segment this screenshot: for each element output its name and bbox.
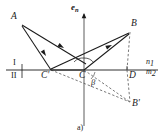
region-label-lower: II [11,71,17,80]
region-label-upper: I [13,58,16,67]
point-label-C-prime: C' [41,71,49,81]
media-labels: n1 m2 [146,58,156,78]
point-label-C: C [79,71,85,81]
angle-label-beta: β [91,78,95,87]
arrowhead-toward-C [105,43,113,50]
ray-C-to-B [84,34,129,70]
ray-A-to-Cprime [22,26,51,70]
figure-caption: a) [77,124,83,132]
medium-label-lower: m2 [146,68,156,78]
normal-vector-subscript: n [75,6,79,13]
point-label-B: B [131,19,137,29]
angle-arc-reflection [84,58,94,63]
arrowhead-normal-vector [82,13,87,18]
normal-vector-label: en [71,3,79,13]
ray-A-to-C [22,25,86,64]
point-label-A: A [11,12,17,22]
point-label-D: D [129,71,136,81]
dashed-B-to-D [127,32,130,70]
reflection-ray-diagram: en A B C C' D B' I II n1 m2 β a) [0,0,165,140]
ray-Cprime-to-B [51,33,129,69]
point-label-B-prime: B' [132,99,140,109]
